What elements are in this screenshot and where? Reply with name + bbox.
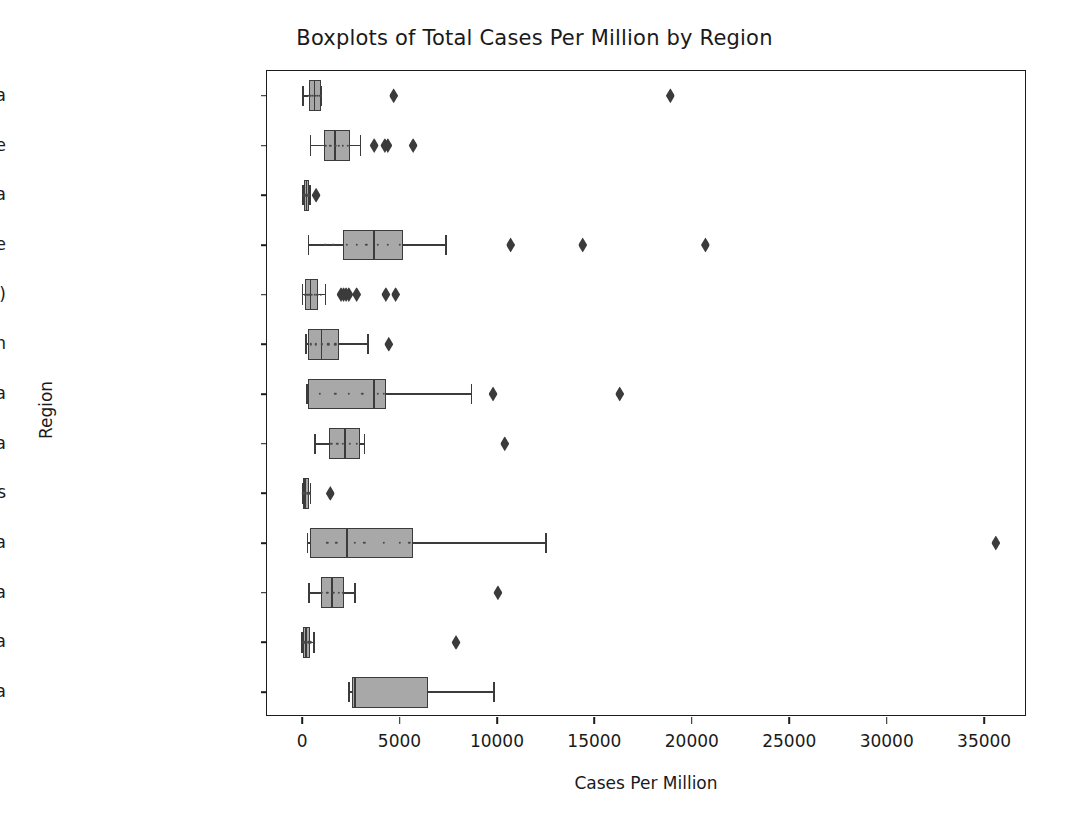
y-axis-tick-label: Africa (other) [0,284,6,304]
outlier-marker [615,387,624,402]
boxplot-box [352,677,428,708]
outlier-marker [666,88,675,103]
outlier-marker [489,387,498,402]
boxplot-median-line [346,528,348,559]
y-axis-tick-mark [261,194,268,196]
chart-title: Boxplots of Total Cases Per Million by R… [0,26,1069,50]
whisker-low-line [311,145,325,147]
whisker-high-line [413,542,546,544]
x-axis-tick-mark [691,717,693,724]
x-axis-tick-label: 30000 [860,731,914,751]
whisker-high-cap [445,235,447,255]
whisker-low-line [309,592,321,594]
outlier-marker [370,138,379,153]
x-axis-tick-mark [496,717,498,724]
y-axis-tick-label: Caribbean [0,333,6,353]
whisker-high-cap [545,533,547,553]
whisker-low-cap [302,86,304,106]
whisker-low-cap [314,434,316,454]
y-axis-tick-mark [261,294,268,296]
y-axis-tick-label: South Asia [0,85,6,105]
chart-canvas: Boxplots of Total Cases Per Million by R… [0,0,1069,828]
y-axis-tick-label: South America [0,383,6,403]
y-axis-tick-mark [261,145,268,147]
y-axis-tick-label: Western Europe [0,234,6,254]
whisker-low-cap [310,135,312,155]
y-axis-label-text: Region [36,330,56,490]
y-axis-tick-mark [261,95,268,97]
y-axis-tick-mark [261,443,268,445]
outlier-marker [312,188,321,203]
y-axis-tick-label: North America [0,681,6,701]
whisker-high-line [386,393,472,395]
x-axis-tick-label: 10000 [470,731,524,751]
outlier-marker [991,536,1000,551]
y-axis-tick-label: Central Asia [0,433,6,453]
whisker-low-line [315,443,329,445]
x-axis-label: Cases Per Million [266,773,1026,793]
x-axis-tick-label: 5000 [378,731,421,751]
x-axis-tick-mark [301,717,303,724]
whisker-low-cap [305,334,307,354]
x-axis-tick-mark [399,717,401,724]
y-axis-tick-label: Central America [0,582,6,602]
whisker-high-cap [471,384,473,404]
outlier-marker [381,287,390,302]
y-axis-tick-label: Oceania / Aus [0,482,6,502]
y-axis-tick-label: East Asia [0,631,6,651]
outlier-marker [578,237,587,252]
y-axis-tick-label: West Asia [0,532,6,552]
x-axis-tick-label: 35000 [957,731,1011,751]
whisker-high-line [403,244,446,246]
x-axis-tick-mark [788,717,790,724]
y-axis-tick-mark [261,592,268,594]
plot-area: 05000100001500020000250003000035000 [266,70,1026,716]
y-axis-tick-label: North Africa [0,184,6,204]
x-axis-tick-label: 0 [297,731,308,751]
whisker-high-cap [313,632,315,652]
outlier-marker [389,88,398,103]
y-axis-tick-mark [261,393,268,395]
boxplot-median-line [344,428,346,459]
y-axis-tick-mark [261,344,268,346]
whisker-high-cap [364,434,366,454]
boxplot-median-line [354,677,356,708]
x-axis-tick-mark [594,717,596,724]
outlier-marker [452,635,461,650]
y-axis-label: Region [14,170,34,330]
x-axis-tick-label: 20000 [665,731,719,751]
outlier-marker [409,138,418,153]
y-axis-tick-mark [261,244,268,246]
whisker-low-cap [308,583,310,603]
y-axis-tick-mark [261,642,268,644]
whisker-high-cap [493,682,495,702]
whisker-low-cap [348,682,350,702]
whisker-low-cap [308,235,310,255]
y-axis-tick-mark [261,691,268,693]
outlier-marker [326,486,335,501]
x-axis-tick-mark [886,717,888,724]
outlier-marker [493,585,502,600]
x-axis-tick-label: 15000 [567,731,621,751]
x-axis-tick-mark [983,717,985,724]
boxplot-median-line [373,230,375,261]
whisker-high-cap [354,583,356,603]
whisker-high-cap [325,284,327,304]
outlier-marker [500,436,509,451]
x-axis-tick-label: 25000 [762,731,816,751]
whisker-low-cap [307,533,309,553]
y-axis-tick-label: Eastern Europe [0,135,6,155]
whisker-high-line [339,343,369,345]
outlier-marker [352,287,361,302]
outlier-marker [701,237,710,252]
y-axis-tick-mark [261,542,268,544]
boxplot-median-line [373,379,375,410]
outlier-marker [391,287,400,302]
y-axis-tick-mark [261,493,268,495]
whisker-high-cap [367,334,369,354]
whisker-high-cap [360,135,362,155]
outlier-marker [384,337,393,352]
outlier-marker [506,237,515,252]
whisker-high-line [428,691,494,693]
